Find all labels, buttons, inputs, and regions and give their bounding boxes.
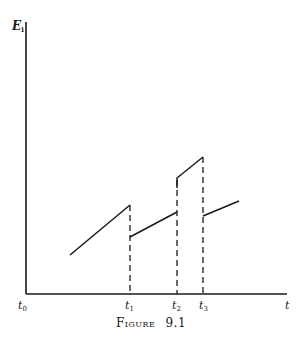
tick-label-t3: t3	[199, 300, 208, 313]
tick-label-t2: t2	[172, 300, 181, 313]
tick-label-subscript: 3	[203, 305, 207, 313]
tick-label-subscript: 1	[129, 305, 133, 313]
plot-canvas	[0, 0, 302, 344]
x-axis-label: t	[285, 300, 289, 311]
y-axis-label-subscript: i	[21, 25, 24, 34]
figure-caption: Figure9.1	[0, 316, 302, 330]
tick-label-t1: t1	[125, 300, 134, 313]
tick-label-subscript: 2	[176, 305, 180, 313]
caption-word: Figure	[116, 316, 155, 330]
caption-number: 9.1	[165, 316, 186, 330]
origin-label-subscript: 0	[22, 305, 26, 313]
segment-4	[203, 201, 239, 216]
segment-3	[177, 157, 203, 188]
segment-1	[70, 205, 130, 255]
segment-2	[130, 212, 177, 237]
origin-label: t0	[18, 300, 27, 313]
y-axis-label: Ei	[12, 20, 24, 33]
y-axis-label-text: E	[12, 19, 21, 33]
